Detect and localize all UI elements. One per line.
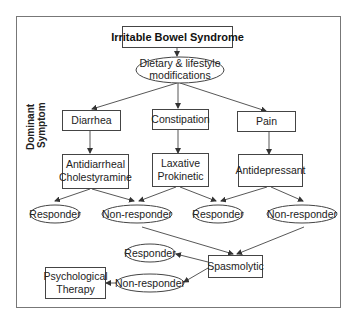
symptom-label: Pain bbox=[256, 115, 277, 127]
outcome-responder-3: Responder bbox=[124, 244, 176, 262]
arrow-laxative-to-responder bbox=[180, 187, 216, 201]
outcome-responder-2: Responder bbox=[192, 205, 244, 223]
outcome-nonresponder-2: Non-responder bbox=[267, 205, 338, 223]
outcome-label: Non-responder bbox=[115, 277, 186, 289]
arrow-nonresponder2-to-spasmolytic bbox=[237, 227, 304, 254]
outcome-label: Non-responder bbox=[102, 208, 173, 220]
outcome-label: Non-responder bbox=[267, 208, 338, 220]
dietary-line2: modifications bbox=[149, 69, 210, 81]
spasmolytic-label: Spasmolytic bbox=[207, 260, 264, 272]
symptom-constipation: Constipation bbox=[151, 110, 210, 130]
treatment-line1: Laxative bbox=[161, 157, 200, 169]
side-label-line2: Symptom bbox=[36, 102, 47, 148]
symptom-label: Diarrhea bbox=[71, 114, 111, 126]
symptom-pain: Pain bbox=[238, 112, 296, 132]
arrow-antidepressant-to-nonresponder bbox=[271, 187, 303, 201]
outcome-label: Responder bbox=[29, 208, 81, 220]
side-label-line1: Dominant bbox=[25, 103, 36, 150]
treatment-laxative: Laxative Prokinetic bbox=[153, 154, 209, 187]
ibs-flowchart: Dominant Symptom Irritable Bowel Syndrom… bbox=[0, 0, 351, 320]
symptom-diarrhea: Diarrhea bbox=[63, 111, 121, 131]
treatment-line1: Antidepressant bbox=[235, 164, 305, 176]
arrow-laxative-to-nonresponder bbox=[139, 187, 176, 201]
arrow-antidepressant-to-responder bbox=[221, 187, 267, 201]
psychological-therapy-box: Psychological Therapy bbox=[43, 268, 107, 299]
outcome-label: Responder bbox=[192, 208, 244, 220]
dominant-symptom-label: Dominant Symptom bbox=[25, 102, 47, 150]
arrow-diet-to-pain bbox=[180, 83, 266, 111]
ibs-title: Irritable Bowel Syndrome bbox=[111, 31, 244, 43]
arrow-diet-to-diarrhea bbox=[92, 83, 177, 109]
final-line2: Therapy bbox=[56, 283, 95, 295]
arrow-spasmolytic-to-nonresponder bbox=[184, 268, 208, 282]
dietary-line1: Dietary & lifestyle bbox=[139, 57, 220, 69]
dietary-lifestyle-node: Dietary & lifestyle modifications bbox=[136, 57, 224, 83]
arrow-antidiarrheal-to-responder bbox=[55, 189, 90, 201]
symptom-label: Constipation bbox=[151, 113, 210, 125]
final-line1: Psychological bbox=[43, 270, 107, 282]
ibs-box: Irritable Bowel Syndrome bbox=[111, 27, 244, 48]
spasmolytic-box: Spasmolytic bbox=[207, 256, 264, 278]
treatment-antidepressant: Antidepressant bbox=[235, 155, 305, 187]
treatment-line2: Cholestyramine bbox=[59, 171, 132, 183]
outcome-nonresponder-1: Non-responder bbox=[102, 205, 173, 223]
outcome-nonresponder-3: Non-responder bbox=[115, 274, 186, 292]
treatment-antidiarrheal: Antidiarrheal Cholestyramine bbox=[59, 155, 132, 189]
outcome-label: Responder bbox=[124, 247, 176, 259]
arrow-spasmolytic-to-responder bbox=[176, 254, 208, 262]
treatment-line1: Antidiarrheal bbox=[66, 158, 125, 170]
treatment-line2: Prokinetic bbox=[157, 170, 203, 182]
outcome-responder-1: Responder bbox=[29, 205, 81, 223]
arrow-antidiarrheal-to-nonresponder bbox=[92, 189, 134, 201]
